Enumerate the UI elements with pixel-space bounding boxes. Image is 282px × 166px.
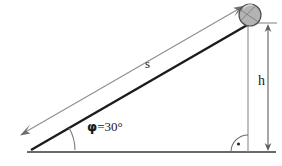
inclined-plane-figure: s h φ=30° [0, 0, 282, 166]
slope-length-label: s [145, 57, 150, 70]
angle-arc [69, 128, 75, 150]
incline-surface-line [31, 24, 249, 150]
height-label: h [258, 74, 265, 88]
slope-dimension-line [22, 7, 242, 134]
diagram-canvas [0, 0, 282, 166]
angle-label: φ=30° [87, 120, 123, 133]
phi-symbol: φ [87, 119, 97, 134]
sphere-body [239, 4, 261, 26]
angle-equals-sign: = [97, 119, 104, 134]
angle-value: 30° [105, 119, 123, 134]
right-angle-dot-icon [237, 142, 240, 145]
